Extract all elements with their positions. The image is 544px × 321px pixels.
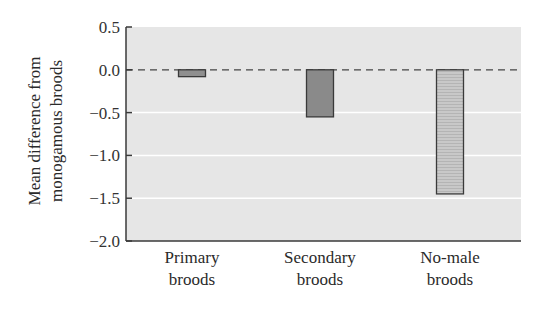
bar-no-male (437, 70, 464, 194)
y-axis-label-line: monogamous broods (47, 60, 66, 202)
bar-chart: 0.50.0−0.5−1.0−1.5−2.0 PrimarybroodsSeco… (0, 0, 544, 321)
x-category-label: broods (169, 270, 215, 289)
x-category-label: Primary (165, 248, 220, 267)
y-tick-label: 0.0 (99, 61, 120, 80)
x-category-label: broods (297, 270, 343, 289)
y-axis-label: Mean difference frommonogamous broods (25, 57, 66, 206)
y-axis-label-line: Mean difference from (25, 57, 44, 206)
x-category-labels: PrimarybroodsSecondarybroodsNo-malebrood… (165, 248, 480, 289)
x-category-label: Secondary (284, 248, 356, 267)
y-tick-label: −1.5 (89, 189, 120, 208)
y-tick-label: −2.0 (89, 232, 120, 251)
y-tick-label: 0.5 (99, 18, 120, 37)
x-category-label: broods (427, 270, 473, 289)
y-tick-labels: 0.50.0−0.5−1.0−1.5−2.0 (89, 18, 120, 251)
y-tick-label: −0.5 (89, 104, 120, 123)
bar-secondary (307, 70, 334, 117)
bar-primary (179, 70, 206, 77)
x-category-label: No-male (420, 248, 479, 267)
y-tick-label: −1.0 (89, 146, 120, 165)
